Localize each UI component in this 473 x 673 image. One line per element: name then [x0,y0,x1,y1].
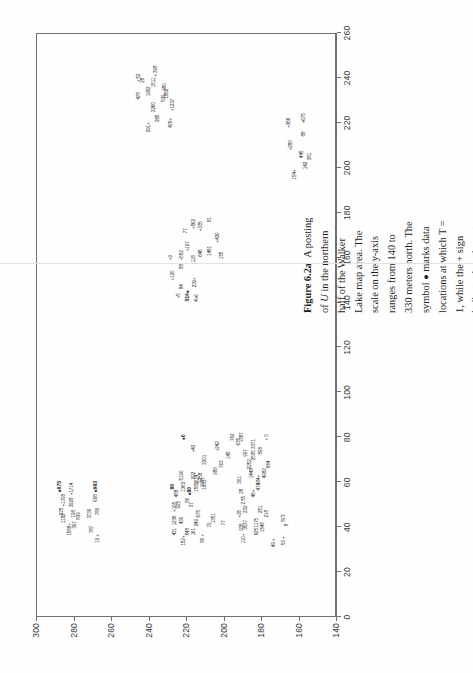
y-tick-label: 240 [144,623,154,638]
data-posting-plus: 780 [96,508,101,515]
y-tick [299,617,300,621]
data-posting-plus: 698 [94,494,99,501]
data-posting-plus: 478 [137,92,142,99]
dot-symbol-icon: ● [421,274,431,279]
y-tick [149,617,150,621]
data-posting-plus: 839 [77,512,82,519]
data-posting-plus: 5190 [180,471,185,481]
data-posting-plus: 152+ [182,536,187,546]
x-tick-label: 80 [342,432,352,442]
data-posting-plus: 787 [90,526,95,533]
caption-variable: U [319,294,330,302]
x-tick [337,391,341,392]
scan-artifact-line [0,263,473,264]
data-posting-plus: +1708 [62,494,67,506]
data-posting-plus: 430 [180,517,185,524]
data-posting-plus: +9 [169,255,174,260]
data-posting-plus: 431 [172,528,177,535]
data-posting-plus: 1448 [249,468,254,478]
data-posting-plus: 2260 [152,102,157,112]
y-tick [74,617,75,621]
data-posting-plus: 19 + [96,534,101,543]
figure-number: Figure 6.2a [302,263,313,313]
y-tick-label: 160 [294,623,304,638]
data-posting-plus: 675 [197,510,202,517]
data-posting-plus: 77 [221,520,226,525]
data-posting-plus: 142 [304,162,309,169]
data-posting-plus: 1962 [146,86,151,96]
x-tick-label: 200 [342,160,352,175]
figure-caption: Figure 6.2a A posting of U in the northe… [300,217,473,313]
y-tick [224,617,225,621]
data-posting-plus: +120 [171,271,176,281]
data-posting-plus: 37 [189,502,194,507]
data-posting-plus: 925 [176,501,181,508]
data-posting-plus: 80 + [201,534,206,543]
x-tick-label: 60 [342,477,352,487]
data-posting-plus: +43 [191,445,196,453]
caption-text-2: in the northern half of the Walker Lake … [319,221,431,313]
data-posting-plus: 81 [208,217,213,222]
data-posting-plus: 4+6 [195,294,200,302]
data-posting-plus: 445 [300,151,305,158]
rotated-figure-canvas: 020406080100120140160180200220240260 140… [0,0,473,673]
data-posting-plus: +675 [302,113,307,123]
data-posting-plus: 980 [163,83,168,90]
y-tick-label: 280 [69,623,79,638]
data-posting-plus: 301 [238,476,243,483]
data-posting-plus: 88 [180,264,185,269]
data-posting-dot: ●675 [58,481,63,492]
data-posting-dot: 60 [170,484,175,490]
data-posting-plus: 249 [195,519,200,526]
y-tick [186,617,187,621]
data-posting-plus: +1714 [69,483,74,495]
data-posting-plus: + 398 [154,66,159,77]
y-tick [261,617,262,621]
x-tick [337,167,341,168]
data-posting-plus: 110+ [242,534,247,544]
x-tick [337,77,341,78]
data-posting-plus: 50 + [281,536,286,545]
data-posting-plus: 1236 [172,516,177,526]
x-tick [337,526,341,527]
y-tick-label: 220 [181,623,191,638]
data-posting-plus: 28 [141,78,146,83]
x-tick-label: 20 [342,567,352,577]
x-tick [337,616,341,617]
data-posting-plus: +366 [287,118,292,128]
data-posting-plus: +335 [199,221,204,231]
x-tick [337,212,341,213]
x-tick [337,481,341,482]
y-tick [111,617,112,621]
data-posting-plus: 664 [266,461,271,468]
data-posting-plus: 155 [219,252,224,259]
data-posting-plus: 2252 [247,459,252,469]
data-posting-plus: 989 [214,467,219,474]
data-posting-plus: 239+ [193,277,198,287]
x-tick-label: 240 [342,71,352,86]
data-posting-plus: 4982 [262,468,267,478]
x-tick-label: 0 [342,615,352,620]
data-posting-plus: 77 [184,228,189,233]
y-tick-label: 300 [31,623,41,638]
figure-page: 020406080100120140160180200220240260 140… [0,0,473,673]
data-posting-plus: 3371 [251,439,256,449]
data-posting-dot: 514● [185,290,190,301]
data-posting-plus: 1548 [261,522,266,532]
y-tick [336,617,337,621]
x-tick [337,32,341,33]
data-posting-plus: 648 [199,249,204,256]
x-tick [337,571,341,572]
data-posting-plus: 218 [264,510,269,517]
x-tick [337,122,341,123]
data-posting-dot: ●0 [182,434,187,440]
data-posting-plus: 488 [174,490,179,497]
data-posting-plus: 763 [219,461,224,468]
y-tick-label: 200 [219,623,229,638]
data-posting-plus: 997 [244,449,249,456]
x-tick-label: 40 [342,522,352,532]
data-posting-plus: 1481 [208,246,213,256]
x-tick [337,436,341,437]
data-posting-plus: 2201 [202,455,207,465]
data-posting-plus: +197 [186,241,191,251]
